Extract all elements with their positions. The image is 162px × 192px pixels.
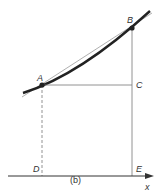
label-c: C <box>136 81 143 90</box>
label-b: B <box>127 16 133 25</box>
point-a <box>39 82 44 87</box>
label-e: E <box>136 165 142 174</box>
x-axis-arrow-icon <box>145 173 154 179</box>
label-x-axis: x <box>145 183 150 192</box>
label-d: D <box>33 165 40 174</box>
point-b <box>129 25 134 30</box>
label-a: A <box>37 74 43 83</box>
figure-caption: (b) <box>70 176 81 185</box>
